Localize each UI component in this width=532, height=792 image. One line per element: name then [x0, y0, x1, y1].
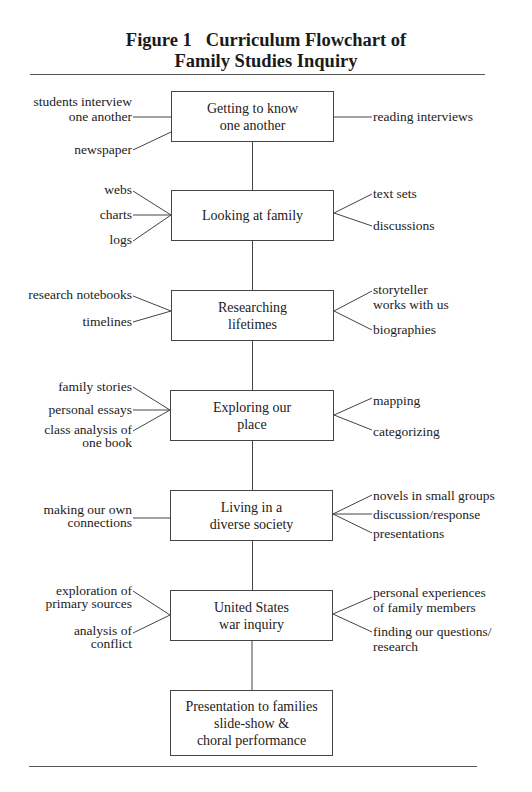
activity-label: mapping — [373, 393, 420, 408]
node-line: Living in a — [221, 499, 282, 516]
flow-node-us-war-inquiry: United States war inquiry — [170, 590, 333, 641]
node-line: diverse society — [210, 516, 294, 533]
activity-label: making our ownconnections — [44, 503, 133, 529]
node-line: place — [237, 416, 267, 433]
activity-label: family stories — [58, 379, 132, 394]
activity-label: presentations — [373, 526, 444, 541]
activity-label: charts — [100, 207, 132, 222]
activity-label: class analysis ofone book — [44, 423, 132, 449]
node-line: war inquiry — [219, 616, 284, 633]
node-line: Getting to know — [207, 100, 298, 117]
activity-label: analysis ofconflict — [74, 624, 132, 650]
node-line: Exploring our — [213, 399, 291, 416]
activity-label: categorizing — [373, 424, 440, 439]
activity-label: newspaper — [74, 142, 132, 157]
flow-node-looking-at-family: Looking at family — [171, 190, 334, 241]
flow-node-living-in-diverse-society: Living in a diverse society — [170, 490, 333, 541]
node-line: lifetimes — [228, 316, 277, 333]
node-line: choral performance — [197, 732, 306, 749]
flow-node-researching-lifetimes: Researching lifetimes — [171, 290, 334, 341]
activity-label: timelines — [83, 314, 133, 329]
flow-node-getting-to-know: Getting to know one another — [171, 91, 334, 142]
node-line: slide-show & — [214, 715, 289, 732]
activity-label: research notebooks — [28, 287, 132, 302]
activity-label: novels in small groups — [373, 488, 495, 503]
flow-node-exploring-our-place: Exploring our place — [170, 390, 334, 441]
activity-label: storytellerworks with us — [373, 282, 449, 312]
activity-label: webs — [104, 182, 132, 197]
flow-node-presentation-to-families: Presentation to families slide-show & ch… — [170, 690, 333, 756]
node-line: one another — [220, 117, 286, 134]
activity-label: personal essays — [48, 402, 132, 417]
node-line: United States — [214, 599, 289, 616]
node-line: Presentation to families — [185, 698, 317, 715]
node-line: Researching — [218, 299, 287, 316]
node-line: Looking at family — [202, 207, 303, 224]
activity-label: reading interviews — [373, 109, 473, 124]
activity-label: discussions — [373, 218, 435, 233]
activity-label: personal experiencesof family members — [373, 585, 486, 615]
activity-label: logs — [109, 232, 132, 247]
activity-label: text sets — [373, 186, 417, 201]
activity-label: finding our questions/research — [373, 624, 492, 654]
activity-label: students interviewone another — [33, 94, 132, 124]
activity-label: biographies — [373, 322, 436, 337]
activity-label: discussion/response — [373, 507, 480, 522]
activity-label: exploration ofprimary sources — [45, 584, 132, 610]
